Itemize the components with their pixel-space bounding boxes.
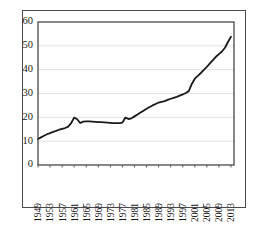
x-tick-label: 1949 [33,203,43,222]
x-tick-label: 1989 [154,203,164,222]
x-tick-label: 1985 [142,203,152,222]
x-tick-label: 1997 [178,203,188,222]
x-tick-label: 2009 [214,203,224,222]
y-tick-label: 10 [23,135,34,146]
x-tick-label: 1973 [106,203,116,222]
y-tick-label: 20 [23,111,34,122]
y-tick-label: 50 [23,39,34,50]
x-tick-label: 1965 [82,203,92,222]
y-tick-label: 0 [28,158,33,169]
y-tick-label: 40 [23,63,34,74]
x-tick-label: 2005 [202,203,212,222]
y-axis-tick-labels: 0102030405060 [23,15,34,169]
line-chart: 0102030405060 19491953195719611965196919… [0,0,266,225]
chart-figure: 0102030405060 19491953195719611965196919… [0,0,266,225]
x-axis-tick-labels: 1949195319571961196519691973197719811985… [33,203,236,222]
x-tick-label: 2001 [190,203,200,222]
x-tick-label: 1953 [45,203,55,222]
x-tick-label: 1961 [70,203,80,222]
x-tick-label: 1981 [130,203,140,222]
x-tick-label: 1977 [118,203,128,222]
y-tick-label: 60 [23,15,34,26]
x-tick-label: 2013 [226,203,236,222]
x-tick-label: 1969 [94,203,104,222]
x-tick-label: 1957 [58,203,68,222]
x-tick-label: 1993 [166,203,176,222]
y-tick-label: 30 [23,87,34,98]
